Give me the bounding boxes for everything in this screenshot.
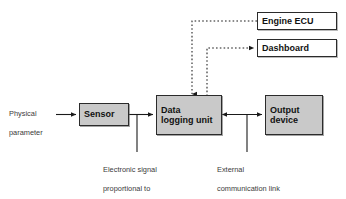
annotation-electronic-signal: Electronic signal proportional to physic… bbox=[103, 155, 203, 199]
connector-dlu-to-dashboard bbox=[207, 48, 254, 96]
unit-dashboard[interactable]: Dashboard bbox=[257, 39, 337, 57]
annotation-external-link-line2: communication link bbox=[217, 184, 333, 194]
block-data-logging-unit-line2: logging unit bbox=[161, 115, 221, 126]
unit-engine-ecu-label: Engine ECU bbox=[262, 16, 314, 27]
annotation-electronic-signal-line2: proportional to bbox=[103, 184, 203, 194]
physical-parameter-line1: Physical bbox=[9, 109, 57, 119]
block-data-logging-unit-line1: Data bbox=[161, 105, 221, 116]
block-output-device[interactable]: Output device bbox=[265, 95, 323, 135]
physical-parameter-label: Physical parameter bbox=[9, 99, 57, 147]
annotation-external-link: External communication link (serial, par… bbox=[217, 155, 333, 199]
block-data-logging-unit[interactable]: Data logging unit bbox=[156, 95, 222, 135]
physical-parameter-line2: parameter bbox=[9, 128, 57, 138]
block-output-device-line2: device bbox=[270, 115, 322, 126]
connector-engine-ecu-to-dlu bbox=[192, 21, 257, 94]
block-sensor[interactable]: Sensor bbox=[79, 103, 129, 126]
unit-dashboard-label: Dashboard bbox=[262, 43, 309, 54]
block-sensor-label: Sensor bbox=[84, 109, 128, 120]
annotation-electronic-signal-line1: Electronic signal bbox=[103, 165, 203, 175]
annotation-external-link-line1: External bbox=[217, 165, 333, 175]
block-output-device-line1: Output bbox=[270, 105, 322, 116]
unit-engine-ecu[interactable]: Engine ECU bbox=[257, 12, 337, 30]
block-diagram: Physical parameter Sensor Data logging u… bbox=[0, 0, 346, 199]
